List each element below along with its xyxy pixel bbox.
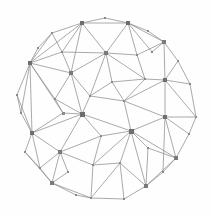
- graph-node-small[interactable]: [147, 30, 149, 32]
- graph-node-small[interactable]: [111, 81, 113, 83]
- graph-node-small[interactable]: [123, 100, 126, 103]
- graph-node-small[interactable]: [151, 51, 153, 53]
- graph-node-small[interactable]: [119, 162, 122, 165]
- graph-node-small[interactable]: [136, 54, 139, 57]
- graph-node-medium[interactable]: [50, 181, 53, 184]
- graph-node-medium[interactable]: [104, 51, 108, 55]
- graph-node-medium[interactable]: [69, 71, 72, 74]
- graph-node-hub[interactable]: [163, 78, 167, 82]
- graph-node-hub[interactable]: [80, 112, 85, 117]
- graph-node-small[interactable]: [67, 171, 69, 173]
- network-graph-figure: [0, 0, 212, 218]
- graph-node-small[interactable]: [37, 47, 39, 49]
- graph-node-hub[interactable]: [163, 115, 167, 119]
- graph-node-small[interactable]: [39, 167, 41, 169]
- graph-node-small[interactable]: [61, 51, 64, 54]
- graph-background: [0, 0, 212, 218]
- graph-node-medium[interactable]: [162, 40, 166, 44]
- graph-node-small[interactable]: [177, 60, 179, 62]
- graph-node-small[interactable]: [195, 116, 197, 118]
- graph-node-medium[interactable]: [144, 184, 148, 188]
- graph-node-small[interactable]: [89, 95, 92, 98]
- graph-node-small[interactable]: [75, 194, 77, 196]
- graph-node-small[interactable]: [144, 78, 147, 81]
- graph-node-small[interactable]: [90, 197, 93, 200]
- graph-node-small[interactable]: [51, 32, 53, 34]
- graph-node-small[interactable]: [188, 133, 190, 135]
- graph-node-hub[interactable]: [129, 129, 134, 134]
- graph-node-small[interactable]: [104, 17, 106, 19]
- graph-node-small[interactable]: [92, 164, 94, 166]
- graph-node-hub[interactable]: [80, 21, 84, 25]
- graph-node-small[interactable]: [100, 135, 102, 137]
- graph-node-medium[interactable]: [58, 150, 62, 154]
- graph-node-small[interactable]: [24, 151, 26, 153]
- graph-node-hub[interactable]: [126, 21, 130, 25]
- graph-node-hub[interactable]: [30, 131, 35, 136]
- graph-canvas: [0, 0, 212, 218]
- graph-node-small[interactable]: [62, 112, 65, 115]
- graph-node-medium[interactable]: [174, 156, 177, 159]
- graph-node-small[interactable]: [123, 198, 125, 200]
- graph-node-small[interactable]: [189, 83, 191, 85]
- graph-node-small[interactable]: [54, 98, 57, 101]
- graph-node-small[interactable]: [147, 147, 149, 149]
- graph-node-small[interactable]: [20, 112, 22, 114]
- graph-node-small[interactable]: [162, 171, 164, 173]
- graph-node-small[interactable]: [16, 94, 18, 96]
- graph-node-hub[interactable]: [28, 61, 33, 66]
